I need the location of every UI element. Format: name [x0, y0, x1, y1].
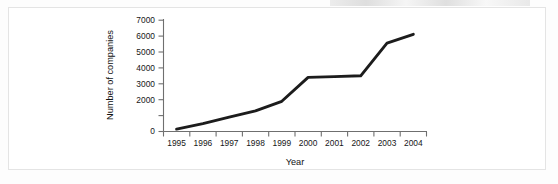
x-tick-label: 1995 [167, 138, 186, 148]
y-tick-label: 3000 [136, 79, 155, 89]
x-tick-label: 2003 [378, 138, 397, 148]
y-tick-label: 6000 [136, 31, 155, 41]
x-tick-label: 1999 [272, 138, 291, 148]
data-series-line [177, 34, 414, 129]
y-tick-label: 5000 [136, 47, 155, 57]
y-tick-label: 0 [150, 126, 155, 136]
y-axis-ticks [159, 20, 164, 131]
x-tick-label: 2004 [404, 138, 423, 148]
x-axis-title: Year [286, 157, 305, 167]
x-tick-label: 1998 [246, 138, 265, 148]
x-axis-ticks [164, 132, 427, 137]
x-tick-label: 1996 [194, 138, 213, 148]
line-chart: 0 2000 3000 4000 5000 6000 7000 [0, 0, 558, 184]
x-tick-label: 1997 [220, 138, 239, 148]
y-axis-title: Number of companies [105, 30, 115, 120]
chart-svg: 0 2000 3000 4000 5000 6000 7000 [0, 0, 558, 184]
x-tick-label: 2002 [351, 138, 370, 148]
x-tick-label: 2001 [325, 138, 344, 148]
y-tick-label: 7000 [136, 15, 155, 25]
y-tick-label: 4000 [136, 63, 155, 73]
y-axis-tick-labels: 0 2000 3000 4000 5000 6000 7000 [136, 15, 155, 136]
screenshot-page: 0 2000 3000 4000 5000 6000 7000 [0, 0, 558, 184]
x-tick-label: 2000 [299, 138, 318, 148]
x-axis-tick-labels: 1995 1996 1997 1998 1999 2000 2001 2002 … [167, 138, 423, 148]
y-tick-label: 2000 [136, 95, 155, 105]
